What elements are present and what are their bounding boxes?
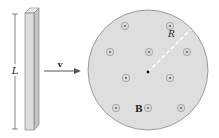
field-dot-center bbox=[124, 25, 126, 27]
field-dot-center bbox=[169, 25, 171, 27]
field-dot-center bbox=[186, 51, 188, 53]
field-dot-center bbox=[125, 77, 127, 79]
field-dot-center bbox=[109, 51, 111, 53]
diagram: L v R B bbox=[0, 0, 219, 138]
field-label: B bbox=[135, 104, 143, 114]
field-dot-center bbox=[148, 51, 150, 53]
field-dot-center bbox=[115, 107, 117, 109]
field-dot-center bbox=[147, 107, 149, 109]
length-label: L bbox=[11, 65, 19, 76]
center-point bbox=[147, 71, 150, 74]
radius-label: R bbox=[167, 29, 175, 39]
conducting-rod bbox=[25, 8, 39, 130]
velocity-arrow bbox=[44, 68, 81, 74]
velocity-label: v bbox=[57, 59, 63, 69]
field-dot-center bbox=[180, 107, 182, 109]
magnetic-field-region bbox=[88, 10, 208, 130]
field-dot-center bbox=[169, 77, 171, 79]
